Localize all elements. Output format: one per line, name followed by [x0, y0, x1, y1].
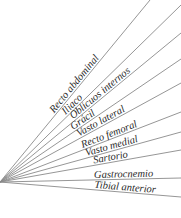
muscle-label: Gastrocnemio: [94, 168, 153, 180]
muscle-line: [0, 178, 181, 182]
muscle-labels: Recto abdominalIliacoOblicuos internosGr…: [46, 52, 157, 194]
muscle-fan-diagram: Recto abdominalIliacoOblicuos internosGr…: [0, 0, 181, 218]
